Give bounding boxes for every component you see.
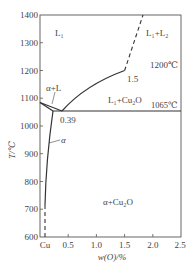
svg-text:900: 900 <box>25 149 39 159</box>
svg-text:1100: 1100 <box>20 93 38 103</box>
miscibility-gap-boundary <box>125 15 143 71</box>
label-1065C: 1065℃ <box>151 100 178 110</box>
svg-text:0.5: 0.5 <box>63 240 75 250</box>
label-L1: L₁ <box>55 28 64 38</box>
x-tick-labels: Cu 0.5 1.0 1.5 2.0 2.5 <box>40 240 186 250</box>
label-alpha: α <box>61 135 66 145</box>
leader-alpha <box>49 140 60 143</box>
leader-aL <box>52 92 55 104</box>
label-L1-Cu2O: L₁+Cu₂O <box>108 95 142 105</box>
svg-text:1000: 1000 <box>20 121 39 131</box>
svg-text:1400: 1400 <box>20 10 39 20</box>
svg-text:2.0: 2.0 <box>147 240 159 250</box>
svg-text:1.5: 1.5 <box>119 240 131 250</box>
svg-text:1200: 1200 <box>20 66 39 76</box>
label-L1L2: L₁+L₂ <box>146 28 168 38</box>
label-alpha-Cu2O: α+Cu₂O <box>103 197 133 207</box>
label-1200C: 1200℃ <box>150 60 178 70</box>
phase-diagram: 1400 1300 1200 1100 1000 900 800 700 600… <box>0 0 195 268</box>
svg-text:1300: 1300 <box>20 38 39 48</box>
y-tick-labels: 1400 1300 1200 1100 1000 900 800 700 600 <box>20 10 39 242</box>
alpha-solvus <box>45 111 53 205</box>
svg-text:2.5: 2.5 <box>174 240 186 250</box>
x-axis-label: w(O)/% <box>98 252 127 262</box>
svg-text:600: 600 <box>25 232 39 242</box>
svg-text:Cu: Cu <box>40 240 51 250</box>
label-eutectic-composition: 0.39 <box>60 115 76 125</box>
svg-text:1.0: 1.0 <box>91 240 103 250</box>
y-axis-label: T/℃ <box>7 140 17 159</box>
label-alpha-L: α+L <box>46 83 61 93</box>
svg-text:700: 700 <box>25 204 39 214</box>
label-monotectic-composition: 1.5 <box>127 74 139 84</box>
svg-text:800: 800 <box>25 177 39 187</box>
region-labels: L₁ L₁+L₂ α+L L₁+Cu₂O α α+Cu₂O 0.39 1.5 1… <box>46 28 178 207</box>
